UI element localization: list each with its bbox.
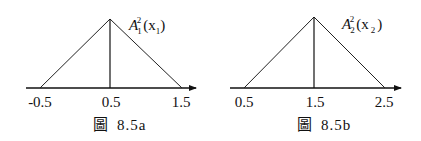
function-label: A22(x2) <box>341 14 382 35</box>
tick-label: 2.5 <box>375 94 394 110</box>
tick-label: 1.5 <box>172 94 191 110</box>
function-label: A12(x1) <box>128 15 165 36</box>
figure-caption: 圖8.5b <box>297 117 351 133</box>
tick-label: 1.5 <box>306 94 325 110</box>
tick-label: 0.5 <box>102 94 121 110</box>
diagram-canvas: -0.5 0.5 1.5 A12(x1) 圖8.5a 0.5 1.5 2.5 A… <box>0 0 421 141</box>
tick-label: 0.5 <box>235 94 254 110</box>
figure-8-5b: 0.5 1.5 2.5 A22(x2) 圖8.5b <box>230 14 401 133</box>
figure-caption: 圖8.5a <box>93 117 146 133</box>
tick-label: -0.5 <box>28 94 52 110</box>
figure-8-5a: -0.5 0.5 1.5 A12(x1) 圖8.5a <box>26 15 196 133</box>
